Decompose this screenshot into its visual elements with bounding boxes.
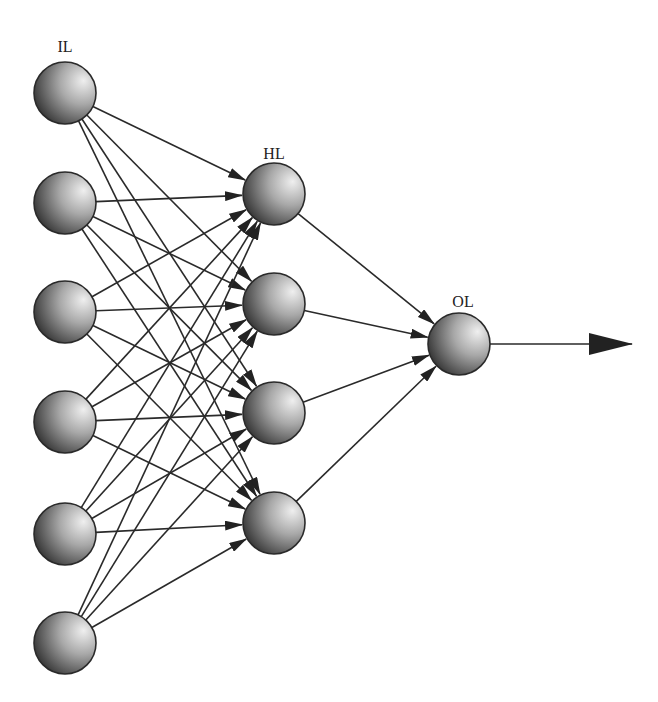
connections-group xyxy=(78,106,632,627)
edge-input-5-to-hidden-1 xyxy=(81,221,257,507)
hidden-layer-label: HL xyxy=(263,145,284,162)
edge-input-4-to-hidden-1 xyxy=(86,218,252,400)
input-node-4 xyxy=(34,391,96,453)
edge-input-6-to-hidden-1 xyxy=(78,223,260,615)
edge-input-6-to-hidden-3 xyxy=(86,437,253,620)
edge-input-6-to-hidden-4 xyxy=(92,539,246,628)
neural-network-diagram: IL HL OL xyxy=(0,0,658,702)
edge-input-6-to-hidden-2 xyxy=(81,331,257,616)
edge-hidden-2-to-output-1 xyxy=(304,311,427,338)
input-layer-label: IL xyxy=(57,38,72,55)
hidden-node-3 xyxy=(243,382,305,444)
edge-input-4-to-hidden-4 xyxy=(93,435,245,509)
hidden-node-2 xyxy=(243,273,305,335)
edge-hidden-4-to-output-1 xyxy=(296,366,436,501)
input-node-3 xyxy=(34,281,96,343)
hidden-node-4 xyxy=(243,492,305,554)
input-node-1 xyxy=(34,62,96,124)
output-layer-label: OL xyxy=(452,293,473,310)
input-node-6 xyxy=(34,612,96,674)
hidden-node-1 xyxy=(243,163,305,225)
input-node-5 xyxy=(34,503,96,565)
output-node-1 xyxy=(428,313,490,375)
input-node-2 xyxy=(34,172,96,234)
edge-input-2-to-hidden-1 xyxy=(96,195,242,201)
edge-hidden-3-to-output-1 xyxy=(303,355,429,402)
edge-hidden-1-to-output-1 xyxy=(298,214,434,324)
